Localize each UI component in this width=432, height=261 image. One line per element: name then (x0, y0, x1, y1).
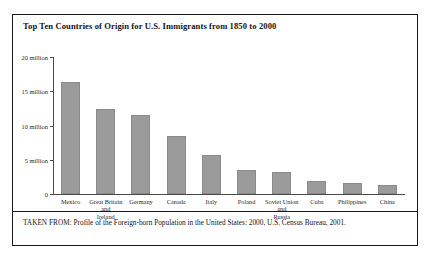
x-axis-label: China (364, 198, 411, 205)
caption-divider (13, 211, 417, 212)
bar-series (53, 43, 405, 195)
y-axis-tick-label: 20 million (22, 54, 48, 61)
bar (131, 115, 150, 194)
bar-slot (229, 170, 264, 194)
bar-slot (370, 185, 405, 194)
y-axis-tick-label: 10 million (22, 122, 48, 129)
bar-slot (123, 115, 158, 194)
chart-title: Top Ten Countries of Origin for U.S. Imm… (23, 21, 276, 31)
bar (167, 136, 186, 194)
bar (96, 109, 115, 194)
source-caption: TAKEN FROM: Profile of the Foreign-born … (23, 218, 346, 227)
x-axis-label-line: China (364, 198, 411, 205)
bar (343, 183, 362, 194)
y-axis-tick-label: 5 million (25, 156, 48, 163)
bar-slot (299, 181, 334, 194)
bar-slot (335, 183, 370, 194)
bar (272, 172, 291, 194)
bar (237, 170, 256, 194)
bar (61, 82, 80, 194)
bar (307, 181, 326, 194)
bar (202, 155, 221, 194)
bar-slot (88, 109, 123, 194)
bar-slot (194, 155, 229, 194)
bar-slot (264, 172, 299, 194)
figure-frame: Top Ten Countries of Origin for U.S. Imm… (12, 14, 418, 246)
bar (378, 185, 397, 194)
plot-area: 20 million15 million10 million5 million0… (53, 43, 405, 195)
y-axis-tick-label: 15 million (22, 88, 48, 95)
y-axis-tick-label: 0 (45, 191, 48, 198)
bar-slot (159, 136, 194, 194)
bar-slot (53, 82, 88, 194)
